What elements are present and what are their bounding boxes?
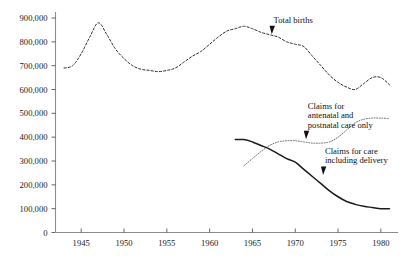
annotation-group: Total birthsClaims forantenatal andpostn… bbox=[270, 15, 389, 175]
annotation-antenatal-postnatal: Claims forantenatal andpostnatal care on… bbox=[304, 101, 374, 140]
annotation-label: Claims for bbox=[308, 101, 345, 111]
line-chart: 0100,000200,000300,000400,000500,000600,… bbox=[0, 0, 402, 263]
x-tick-label: 1965 bbox=[244, 238, 261, 248]
x-axis-ticks bbox=[81, 229, 381, 233]
y-tick-label: 0 bbox=[43, 228, 47, 238]
x-tick-label: 1945 bbox=[73, 238, 90, 248]
y-axis-group: 0100,000200,000300,000400,000500,000600,… bbox=[20, 12, 56, 238]
x-axis-tick-labels: 19451950195519601965197019751980 bbox=[73, 238, 390, 248]
y-tick-label: 800,000 bbox=[20, 37, 48, 47]
annotation-arrow-icon bbox=[304, 131, 309, 140]
y-tick-label: 200,000 bbox=[20, 180, 48, 190]
y-tick-label: 500,000 bbox=[20, 108, 48, 118]
x-tick-label: 1950 bbox=[115, 238, 132, 248]
x-axis-group: 19451950195519601965197019751980 bbox=[56, 229, 399, 248]
series-line-total-births bbox=[64, 23, 389, 90]
x-tick-label: 1980 bbox=[372, 238, 389, 248]
y-axis-ticks bbox=[52, 18, 56, 233]
y-tick-label: 100,000 bbox=[20, 204, 48, 214]
annotation-label: including delivery bbox=[325, 155, 388, 165]
chart-container: 0100,000200,000300,000400,000500,000600,… bbox=[0, 0, 402, 263]
annotation-label: Total births bbox=[274, 15, 314, 25]
annotation-label: Claims for care bbox=[325, 146, 378, 156]
y-tick-label: 300,000 bbox=[20, 156, 48, 166]
x-tick-label: 1975 bbox=[329, 238, 346, 248]
y-tick-label: 900,000 bbox=[20, 13, 48, 23]
y-tick-label: 400,000 bbox=[20, 132, 48, 142]
annotation-label: antenatal and bbox=[308, 110, 354, 120]
annotation-label: postnatal care only bbox=[308, 120, 374, 130]
x-tick-label: 1970 bbox=[287, 238, 304, 248]
y-tick-label: 700,000 bbox=[20, 61, 48, 71]
x-tick-label: 1955 bbox=[158, 238, 175, 248]
y-axis-tick-labels: 0100,000200,000300,000400,000500,000600,… bbox=[20, 13, 48, 238]
annotation-arrow-icon bbox=[321, 166, 326, 175]
x-tick-label: 1960 bbox=[201, 238, 218, 248]
y-tick-label: 600,000 bbox=[20, 85, 48, 95]
annotation-arrow-icon bbox=[270, 26, 275, 35]
annotation-total-births: Total births bbox=[270, 15, 314, 35]
annotation-care-including-delivery: Claims for careincluding delivery bbox=[321, 146, 388, 175]
